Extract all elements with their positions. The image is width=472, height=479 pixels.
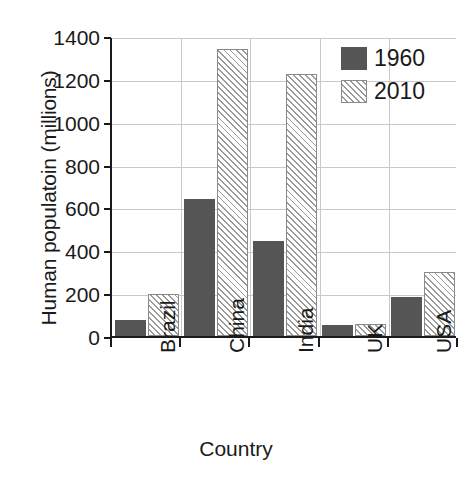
y-tick-label: 200 bbox=[65, 283, 100, 307]
legend-label-1960: 1960 bbox=[374, 47, 425, 70]
legend-entry-2010: 2010 bbox=[341, 75, 425, 108]
bar-uk-1960 bbox=[322, 325, 353, 336]
x-category-label-uk: UK bbox=[363, 324, 387, 353]
x-tick-mark bbox=[456, 338, 458, 347]
x-tick-mark bbox=[387, 338, 389, 347]
legend-entry-1960: 1960 bbox=[341, 42, 425, 75]
x-category-label-china: China bbox=[225, 298, 249, 353]
x-axis-title: Country bbox=[0, 437, 472, 461]
y-tick-label: 1400 bbox=[53, 26, 100, 50]
y-tick-label: 800 bbox=[65, 155, 100, 179]
chart-legend: 19602010 bbox=[341, 42, 425, 108]
x-category-label-brazil: Brazil bbox=[156, 300, 180, 353]
legend-swatch-2010 bbox=[341, 80, 367, 103]
y-tick-label: 0 bbox=[88, 326, 100, 350]
bar-china-2010 bbox=[217, 49, 248, 336]
y-tick-label: 1200 bbox=[53, 69, 100, 93]
legend-label-2010: 2010 bbox=[374, 80, 425, 103]
bar-india-2010 bbox=[286, 74, 317, 337]
x-category-label-india: India bbox=[294, 307, 318, 353]
x-tick-mark bbox=[110, 338, 112, 347]
bar-china-1960 bbox=[184, 199, 215, 336]
bar-chart-figure: Human populatoin (millions) 020040060080… bbox=[0, 0, 472, 479]
bar-brazil-1960 bbox=[115, 320, 146, 336]
x-category-label-usa: USA bbox=[432, 310, 456, 353]
y-tick-label: 400 bbox=[65, 240, 100, 264]
bar-usa-1960 bbox=[391, 297, 422, 336]
y-tick-label: 1000 bbox=[53, 112, 100, 136]
bar-india-1960 bbox=[253, 241, 284, 336]
y-tick-label: 600 bbox=[65, 197, 100, 221]
legend-swatch-1960 bbox=[341, 47, 367, 70]
